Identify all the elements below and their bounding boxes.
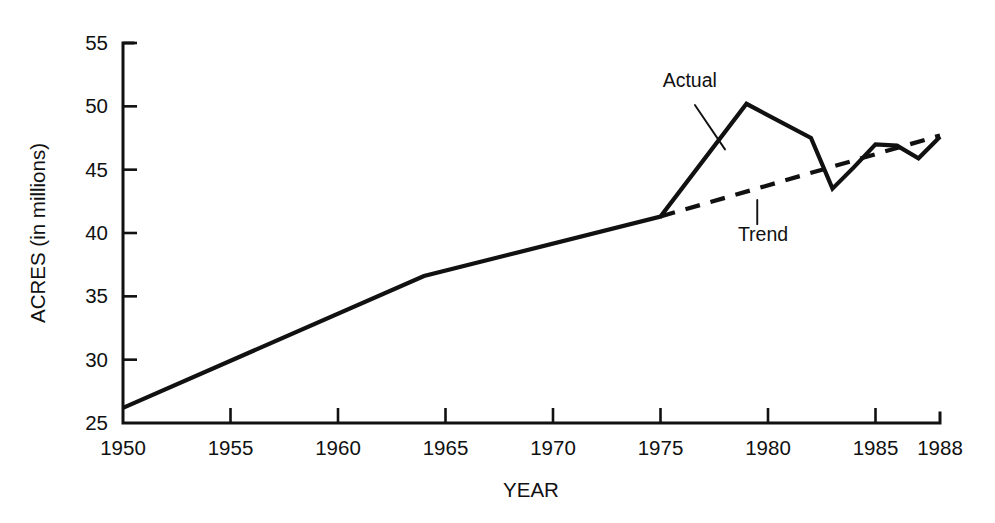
y-tick-label: 40 bbox=[85, 221, 108, 244]
x-tick-label: 1960 bbox=[315, 436, 361, 459]
y-tick-label: 50 bbox=[85, 94, 108, 117]
x-tick-label: 1980 bbox=[745, 436, 791, 459]
axes-group bbox=[123, 43, 940, 423]
x-tick-label: 1988 bbox=[917, 436, 963, 459]
x-axis-title: YEAR bbox=[503, 478, 559, 501]
leader-line-actual bbox=[695, 105, 725, 149]
series-label-actual: Actual bbox=[663, 69, 717, 91]
y-tick-label: 45 bbox=[85, 158, 108, 181]
y-tick-label: 55 bbox=[85, 31, 108, 54]
x-tick-label: 1970 bbox=[530, 436, 576, 459]
x-tick-label: 1955 bbox=[208, 436, 254, 459]
y-tick-label: 30 bbox=[85, 348, 108, 371]
x-tick-label: 1950 bbox=[100, 436, 146, 459]
y-tick-label: 35 bbox=[85, 284, 108, 307]
y-axis-ticks bbox=[123, 43, 137, 360]
line-chart: 25303540455055 1950195519601965197019751… bbox=[0, 0, 995, 523]
y-axis-tick-labels: 25303540455055 bbox=[85, 31, 108, 434]
x-axis-ticks bbox=[231, 408, 876, 423]
series-label-trend: Trend bbox=[738, 223, 788, 245]
series-line-actual bbox=[123, 104, 940, 408]
x-axis-tick-labels: 195019551960196519701975198019851988 bbox=[100, 436, 963, 459]
axis-frame bbox=[123, 43, 940, 423]
series-group bbox=[123, 104, 940, 408]
x-tick-label: 1975 bbox=[638, 436, 684, 459]
chart-container: 25303540455055 1950195519601965197019751… bbox=[0, 0, 995, 523]
y-tick-label: 25 bbox=[85, 411, 108, 434]
y-axis-title: ACRES (in millions) bbox=[26, 143, 49, 323]
x-tick-label: 1985 bbox=[853, 436, 899, 459]
x-tick-label: 1965 bbox=[423, 436, 469, 459]
series-annotations: ActualTrend bbox=[663, 69, 788, 244]
